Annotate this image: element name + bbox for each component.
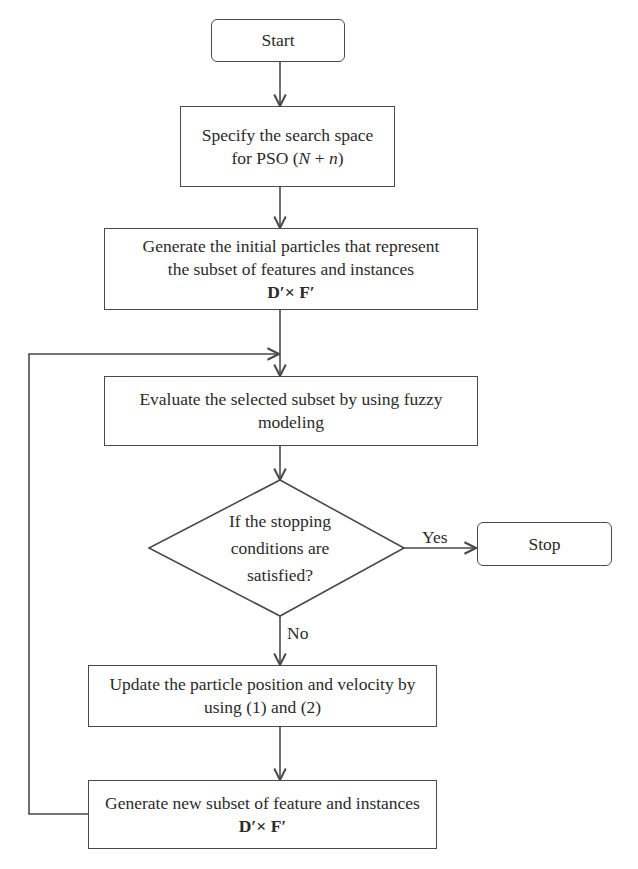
specify-prefix: for PSO ( bbox=[232, 148, 299, 168]
decision-text: If the stopping conditions are satisfied… bbox=[180, 508, 380, 589]
specify-line1: Specify the search space bbox=[202, 124, 374, 147]
var-N: N bbox=[299, 148, 311, 168]
start-terminal: Start bbox=[211, 19, 345, 62]
generate-new-line1: Generate new subset of feature and insta… bbox=[105, 792, 420, 815]
specify-search-space-box: Specify the search space for PSO (N + n) bbox=[180, 106, 395, 187]
update-line2: using (1) and (2) bbox=[204, 696, 321, 719]
update-particle-box: Update the particle position and velocit… bbox=[88, 665, 437, 727]
update-line1: Update the particle position and velocit… bbox=[109, 673, 415, 696]
decision-line3: satisfied? bbox=[180, 562, 380, 589]
init-particles-box: Generate the initial particles that repr… bbox=[104, 228, 478, 310]
evaluate-line2: modeling bbox=[258, 411, 324, 434]
init-formula: D′× F′ bbox=[267, 281, 315, 304]
evaluate-line1: Evaluate the selected subset by using fu… bbox=[139, 388, 442, 411]
yes-label: Yes bbox=[422, 527, 447, 548]
evaluate-subset-box: Evaluate the selected subset by using fu… bbox=[104, 376, 478, 446]
specify-line2: for PSO (N + n) bbox=[232, 147, 344, 170]
specify-suffix: ) bbox=[338, 148, 344, 168]
no-label: No bbox=[287, 623, 308, 644]
generate-new-subset-box: Generate new subset of feature and insta… bbox=[88, 780, 437, 849]
generate-new-formula: D′× F′ bbox=[239, 815, 287, 838]
plus-sign: + bbox=[310, 148, 329, 168]
decision-line2: conditions are bbox=[180, 535, 380, 562]
start-label: Start bbox=[261, 29, 294, 52]
decision-line1: If the stopping bbox=[180, 508, 380, 535]
init-line1: Generate the initial particles that repr… bbox=[143, 235, 440, 258]
init-line2: the subset of features and instances bbox=[168, 258, 414, 281]
var-n: n bbox=[329, 148, 338, 168]
stop-terminal: Stop bbox=[477, 522, 612, 566]
stop-label: Stop bbox=[528, 533, 560, 556]
